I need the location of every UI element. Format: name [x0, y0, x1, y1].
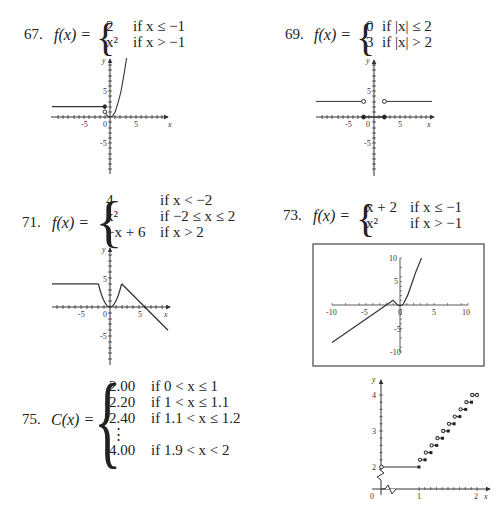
- tick-label: 4: [372, 391, 376, 400]
- series-parabola: [105, 58, 127, 117]
- open-endpoint: [380, 465, 384, 469]
- filled-endpoint: [362, 115, 366, 119]
- step-1: [418, 458, 426, 461]
- tick-label: 5: [103, 87, 107, 96]
- graph-67: [51, 58, 168, 174]
- x-label: x: [483, 492, 488, 501]
- open-endpoint: [362, 99, 366, 103]
- x-label: x: [163, 310, 168, 319]
- filled-endpoint: [418, 466, 421, 469]
- tick-label: -10: [326, 308, 337, 317]
- step-7: [453, 415, 461, 418]
- tick-label: 1: [417, 492, 421, 501]
- step-3: [430, 444, 438, 447]
- tick-label: 3: [372, 427, 376, 436]
- step-8: [459, 408, 467, 411]
- graph-71-labels: y x -5 0 5 5 -5: [78, 245, 168, 341]
- y-label: y: [365, 56, 370, 65]
- tick-label: 2: [474, 492, 478, 501]
- tick-label: -5: [394, 325, 401, 334]
- tick-label: -5: [100, 139, 107, 148]
- step-series: [418, 393, 478, 461]
- tick-label: 5: [394, 277, 398, 286]
- tick-label: -5: [345, 120, 352, 129]
- step-6: [447, 422, 455, 425]
- step-9: [465, 401, 473, 404]
- graph-69-labels: y x -5 0 5 5 -5: [345, 56, 431, 148]
- open-endpoint: [103, 110, 107, 114]
- y-label: y: [101, 56, 106, 65]
- tick-label: 5: [103, 275, 107, 284]
- tick-label: -10: [390, 348, 401, 357]
- tick-label: 0: [366, 120, 370, 129]
- filled-endpoint: [382, 115, 386, 119]
- series-linear: [332, 300, 393, 342]
- graphs-canvas: y x -5 0 5 5 -5 y x -5 0 5 5 -5: [0, 0, 504, 513]
- graph-75-labels: y x 0 1 2 2 3 4: [370, 375, 488, 501]
- y-label: y: [101, 245, 106, 254]
- tick-label: 0: [103, 310, 107, 319]
- graph-75: [372, 380, 490, 495]
- tick-label: 0: [103, 120, 107, 129]
- tick-label: -5: [78, 310, 85, 319]
- filled-endpoint: [103, 105, 107, 109]
- tick-label: 5: [134, 120, 138, 129]
- tick-label: 5: [367, 87, 371, 96]
- tick-label: 0: [398, 308, 402, 317]
- tick-label: 0: [370, 492, 374, 501]
- graph-67-labels: y x -5 0 5 5 -5: [81, 56, 172, 148]
- step-5: [442, 429, 450, 432]
- step-2: [424, 451, 432, 454]
- tick-label: 10: [462, 308, 470, 317]
- graph-69: [316, 60, 434, 176]
- tick-label: 5: [138, 310, 142, 319]
- y-label: y: [371, 375, 376, 384]
- tick-label: 5: [398, 120, 402, 129]
- tick-label: -5: [81, 120, 88, 129]
- tick-label: -5: [100, 332, 107, 341]
- x-label: x: [426, 120, 431, 129]
- graph-71: [52, 248, 170, 365]
- tick-label: 10: [389, 254, 397, 263]
- tick-label: 2: [372, 463, 376, 472]
- tick-label: -5: [361, 308, 368, 317]
- tick-label: 5: [432, 308, 436, 317]
- y-axis-break: [377, 469, 384, 483]
- step-4: [436, 437, 444, 440]
- tick-label: -5: [364, 139, 371, 148]
- open-endpoint: [382, 99, 386, 103]
- x-label: x: [167, 120, 172, 129]
- step-10: [471, 393, 479, 396]
